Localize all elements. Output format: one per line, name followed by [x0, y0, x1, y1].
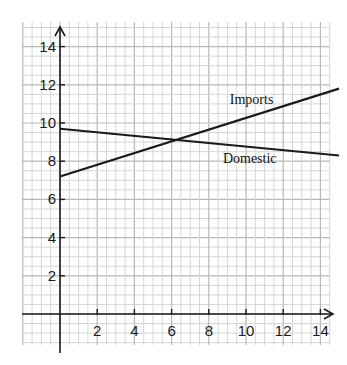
tick-labels: 24681012142468101214	[39, 38, 328, 339]
x-tick-label: 14	[312, 322, 329, 339]
y-tick-label: 2	[48, 267, 56, 284]
y-tick-label: 6	[48, 190, 56, 207]
y-tick-label: 12	[39, 76, 56, 93]
x-tick-label: 10	[238, 322, 255, 339]
series-label-imports: Imports	[230, 92, 274, 107]
x-tick-label: 2	[93, 322, 101, 339]
y-tick-label: 10	[39, 114, 56, 131]
line-chart: 24681012142468101214 ImportsDomestic	[0, 0, 347, 365]
grid	[22, 22, 330, 345]
series-label-domestic: Domestic	[223, 151, 277, 166]
x-tick-label: 6	[167, 322, 175, 339]
y-tick-label: 4	[48, 229, 56, 246]
series-labels: ImportsDomestic	[223, 92, 277, 166]
x-tick-label: 12	[275, 322, 292, 339]
y-tick-label: 8	[48, 152, 56, 169]
x-tick-label: 4	[130, 322, 138, 339]
y-tick-label: 14	[39, 38, 56, 55]
x-tick-label: 8	[205, 322, 213, 339]
